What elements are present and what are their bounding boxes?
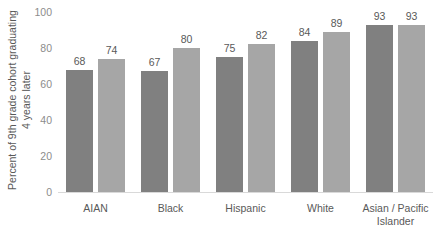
- bar-chart: Percent of 9th grade cohort graduating 4…: [0, 0, 433, 245]
- bar-group: 8489: [291, 12, 350, 192]
- category-axis-line: [58, 192, 433, 193]
- x-axis-category-label: Hispanic: [208, 202, 283, 215]
- bar-group: 9393: [366, 12, 425, 192]
- x-axis-category-label: Black: [133, 202, 208, 215]
- bar-value-label: 93: [392, 11, 432, 22]
- bar-value-label: 82: [242, 30, 282, 41]
- bar[interactable]: [366, 25, 393, 192]
- bar[interactable]: [98, 59, 125, 192]
- x-axis-category-label-line: White: [283, 202, 358, 215]
- y-axis-title-line-1: Percent of 9th grade cohort graduating: [5, 10, 19, 190]
- x-axis-category-label-line: AIAN: [58, 202, 133, 215]
- x-axis-category-label-line: Islander: [358, 215, 433, 228]
- plot-area: 68746780758284899393: [58, 12, 433, 192]
- bar[interactable]: [398, 25, 425, 192]
- y-axis-tick-label: 80: [22, 43, 52, 54]
- bar[interactable]: [66, 70, 93, 192]
- y-axis-tick-label: 100: [22, 7, 52, 18]
- bar-value-label: 75: [210, 43, 250, 54]
- x-axis-category-label: Asian / PacificIslander: [358, 202, 433, 228]
- bar-value-label: 67: [135, 57, 175, 68]
- y-axis-tick-label: 60: [22, 79, 52, 90]
- x-axis-category-label: White: [283, 202, 358, 215]
- bar[interactable]: [248, 44, 275, 192]
- x-axis-category-label-line: Asian / Pacific: [358, 202, 433, 215]
- bar-value-label: 68: [60, 56, 100, 67]
- bar[interactable]: [216, 57, 243, 192]
- y-axis-tick-labels: 100806040200: [22, 0, 52, 245]
- bar-group: 6780: [141, 12, 200, 192]
- x-axis-category-label: AIAN: [58, 202, 133, 215]
- x-axis-category-label-line: Black: [133, 202, 208, 215]
- bar-value-label: 89: [317, 18, 357, 29]
- bar-value-label: 80: [167, 34, 207, 45]
- bar[interactable]: [173, 48, 200, 192]
- bar-group: 7582: [216, 12, 275, 192]
- x-axis-category-labels: AIANBlackHispanicWhiteAsian / PacificIsl…: [58, 196, 433, 244]
- bar-group: 6874: [66, 12, 125, 192]
- y-axis-tick-label: 20: [22, 151, 52, 162]
- x-axis-category-label-line: Hispanic: [208, 202, 283, 215]
- bar[interactable]: [291, 41, 318, 192]
- bar[interactable]: [141, 71, 168, 192]
- bar[interactable]: [323, 32, 350, 192]
- bar-value-label: 74: [92, 45, 132, 56]
- y-axis-tick-label: 40: [22, 115, 52, 126]
- y-axis-tick-label: 0: [22, 187, 52, 198]
